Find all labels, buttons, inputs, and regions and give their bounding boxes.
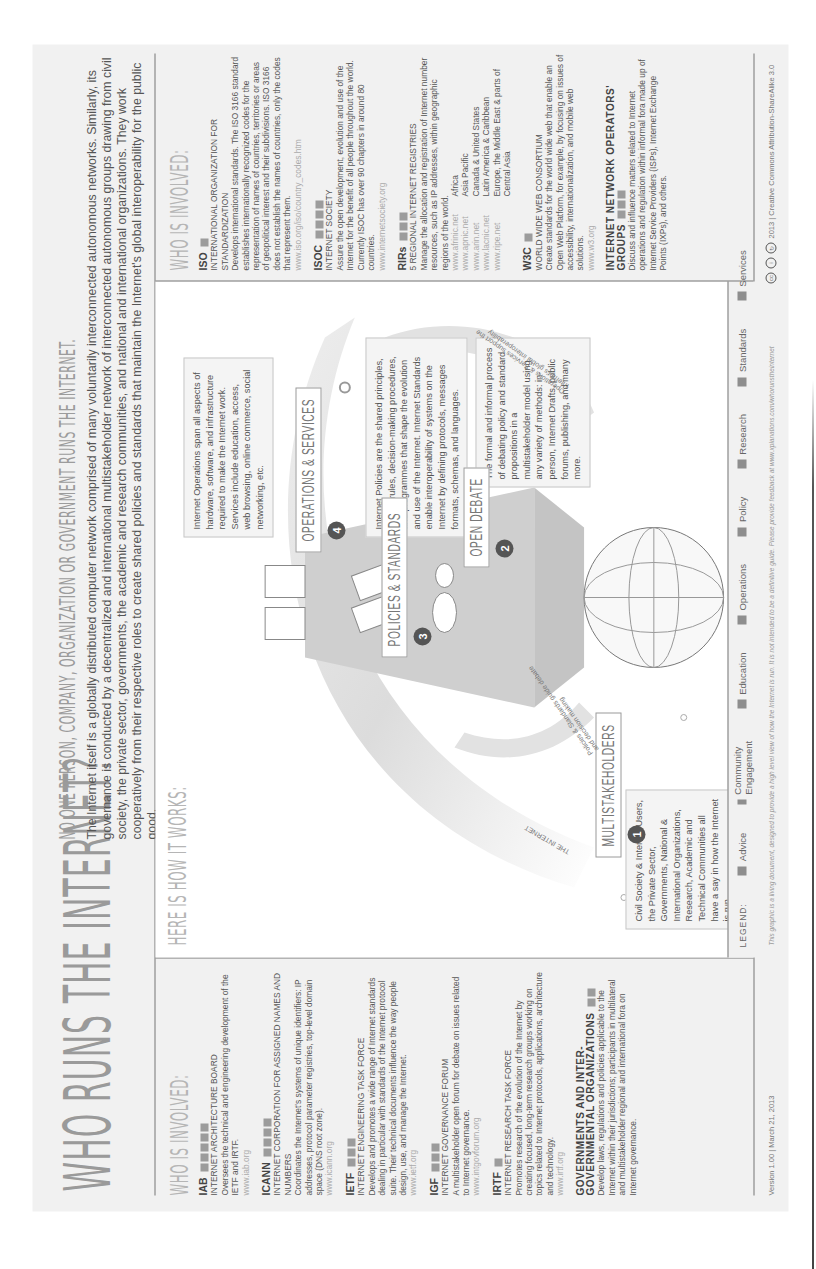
legend-swatch-icon: [737, 292, 746, 301]
org-iab: IABINTERNET ARCHITECTURE BOARDOversees t…: [197, 969, 250, 1196]
isoc-link[interactable]: www.internetsociety.org: [376, 183, 386, 271]
isoc-badges: [315, 201, 323, 239]
category-badge: [263, 1138, 271, 1146]
category-badges: [587, 989, 595, 1007]
sa-icon: ↻: [765, 243, 776, 254]
w3c-link[interactable]: www.w3.org: [585, 225, 595, 270]
category-badge: [200, 1153, 208, 1161]
legend-item-policy: Policy: [731, 497, 753, 536]
left-heading: WHO IS INVOLVED:: [165, 1071, 199, 1196]
disclaimer: This graphic is a living document, desig…: [767, 284, 774, 946]
legend-swatch-icon: [737, 377, 746, 386]
category-badge: [587, 989, 595, 997]
legend-item-standards: Standards: [731, 329, 753, 386]
category-badge: [347, 1139, 355, 1147]
legend-item-education: Education: [731, 653, 753, 709]
rir-region-table: www.afrinic.netAfricawww.apnic.netAsia P…: [449, 54, 511, 271]
right-heading: WHO IS INVOLVED:: [165, 151, 199, 270]
legend-item-operations: Operations: [731, 564, 753, 624]
intro-text: The Internet itself is a globally distri…: [84, 40, 159, 840]
how-it-works-panel: HERE IS HOW IT WORKS:: [155, 282, 753, 958]
org-igf: IGFINTERNET GOVERNANCE FORUMA multistake…: [428, 969, 481, 1196]
rir-link[interactable]: www.apnic.net: [459, 201, 469, 271]
version-date: Version 1.00 | March 21, 2013: [766, 946, 775, 1196]
rir-link[interactable]: www.afrinic.net: [449, 201, 459, 271]
rir-region: Africa: [449, 54, 459, 197]
right-panel: WHO IS INVOLVED: ISO INTERNATIONAL ORGAN…: [155, 54, 753, 282]
org-link[interactable]: www.icann.org: [323, 1141, 333, 1195]
category-badges: [347, 1139, 355, 1167]
inog-badges: [617, 190, 625, 218]
legend-swatch-icon: [737, 700, 746, 709]
tagline: NO ONE PERSON, COMPANY, ORGANIZATION OR …: [54, 339, 79, 840]
category-badge: [200, 1123, 208, 1131]
category-badge: [200, 1163, 208, 1171]
org-link[interactable]: www.irtf.org: [554, 1152, 564, 1196]
legend-item-advice: Advice: [731, 833, 753, 876]
operations-services-banner: OPERATIONS & SERVICES: [295, 388, 321, 553]
category-badge: [263, 1148, 271, 1156]
org-ietf: IETFINTERNET ENGINEERING TASK FORCEDevel…: [344, 969, 418, 1196]
open-debate-banner: OPEN DEBATE: [463, 468, 489, 568]
step-1-badge: 1: [627, 826, 645, 844]
left-panel: WHO IS INVOLVED: IABINTERNET ARCHITECTUR…: [155, 958, 753, 1196]
rir-link[interactable]: www.lacnic.net: [480, 201, 490, 271]
category-badge: [431, 1144, 439, 1152]
footer: Version 1.00 | March 21, 2013 This graph…: [760, 54, 780, 1196]
legend-item-research: Research: [731, 414, 753, 469]
category-badges: [431, 1144, 439, 1172]
legend-swatch-icon: [737, 616, 746, 625]
org-inog: INTERNET NETWORK OPERATORS' GROUPS Discu…: [605, 54, 667, 271]
org-w3c: W3C WORLD WIDE WEB CONSORTIUM Create sta…: [521, 54, 595, 271]
by-icon: i: [765, 258, 776, 269]
page-edge-line: [812, 380, 814, 1269]
rirs-badges: [399, 213, 407, 241]
category-badge: [431, 1164, 439, 1172]
category-badge: [263, 1128, 271, 1136]
org-icann: ICANNINTERNET CORPORATION FOR ASSIGNED N…: [260, 969, 334, 1196]
org-irtf: IRTFINTERNET RESEARCH TASK FORCEPromotes…: [491, 969, 565, 1196]
multistakeholders-description: Civil Society & Internet Users, the Priv…: [625, 790, 740, 930]
step-4-badge: 4: [327, 522, 345, 540]
category-badge: [347, 1159, 355, 1167]
legend-swatch-icon: [737, 527, 746, 536]
org-iso: ISO INTERNATIONAL ORGANIZATION FOR STAND…: [197, 54, 302, 271]
step-2-badge: 2: [495, 540, 513, 558]
poster: WHO RUNS THE INTERNET? NO ONE PERSON, CO…: [32, 45, 788, 1212]
rir-link[interactable]: www.ripe.net: [491, 201, 512, 271]
category-badge: [200, 1133, 208, 1141]
step-3-badge: 3: [413, 628, 431, 646]
category-badge: [263, 1118, 271, 1126]
category-badge: [494, 1158, 502, 1166]
operations-services-description: Internet Operations span all aspects of …: [183, 358, 273, 538]
category-badge: [587, 999, 595, 1007]
category-badge: [431, 1154, 439, 1162]
policies-standards-banner: POLICIES & STANDARDS: [381, 498, 407, 658]
legend-swatch-icon: [737, 866, 746, 875]
org-link[interactable]: www.ietf.org: [407, 1150, 417, 1196]
org-link[interactable]: www.intgovforum.org: [470, 1117, 480, 1195]
policies-standards-description: Internet Policies are the shared princip…: [365, 338, 467, 538]
org-isoc: ISOC INTERNET SOCIETY Assure the open de…: [312, 54, 386, 271]
rir-region: Latin America & Caribbean: [480, 54, 490, 197]
main-frame: WHO IS INVOLVED: IABINTERNET ARCHITECTUR…: [154, 54, 754, 1196]
cc-icon: cc: [765, 273, 776, 284]
org-governments: GOVERNMENTS AND INTER-GOVERNMENTAL ORGAN…: [575, 969, 637, 1196]
category-badge: [200, 1143, 208, 1151]
category-badges: [494, 1158, 502, 1166]
iso-link[interactable]: www.iso.org/iso/country_codes.htm: [292, 139, 302, 270]
org-rirs: RIRs 5 REGIONAL INTERNET REGISTRIES Mana…: [396, 54, 511, 271]
legend-swatch-icon: [737, 800, 746, 805]
category-badge: [347, 1149, 355, 1157]
rir-region: Canada & United States: [470, 54, 480, 197]
legend-item-community-engagement: Community Engagement: [731, 737, 753, 805]
iso-badges: [200, 238, 208, 246]
w3c-badges: [524, 233, 532, 241]
legend-swatch-icon: [737, 460, 746, 469]
rir-link[interactable]: www.arin.net: [470, 201, 480, 271]
org-link[interactable]: www.iab.org: [240, 1150, 250, 1196]
rir-region: Asia Pacific: [459, 54, 469, 197]
multistakeholders-banner: MULTISTAKEHOLDERS: [595, 713, 621, 858]
license: cc i ↻ 2013 | Creative Commons Attributi…: [765, 54, 776, 284]
rir-region: Europe, the Middle East & parts of Centr…: [491, 54, 512, 197]
